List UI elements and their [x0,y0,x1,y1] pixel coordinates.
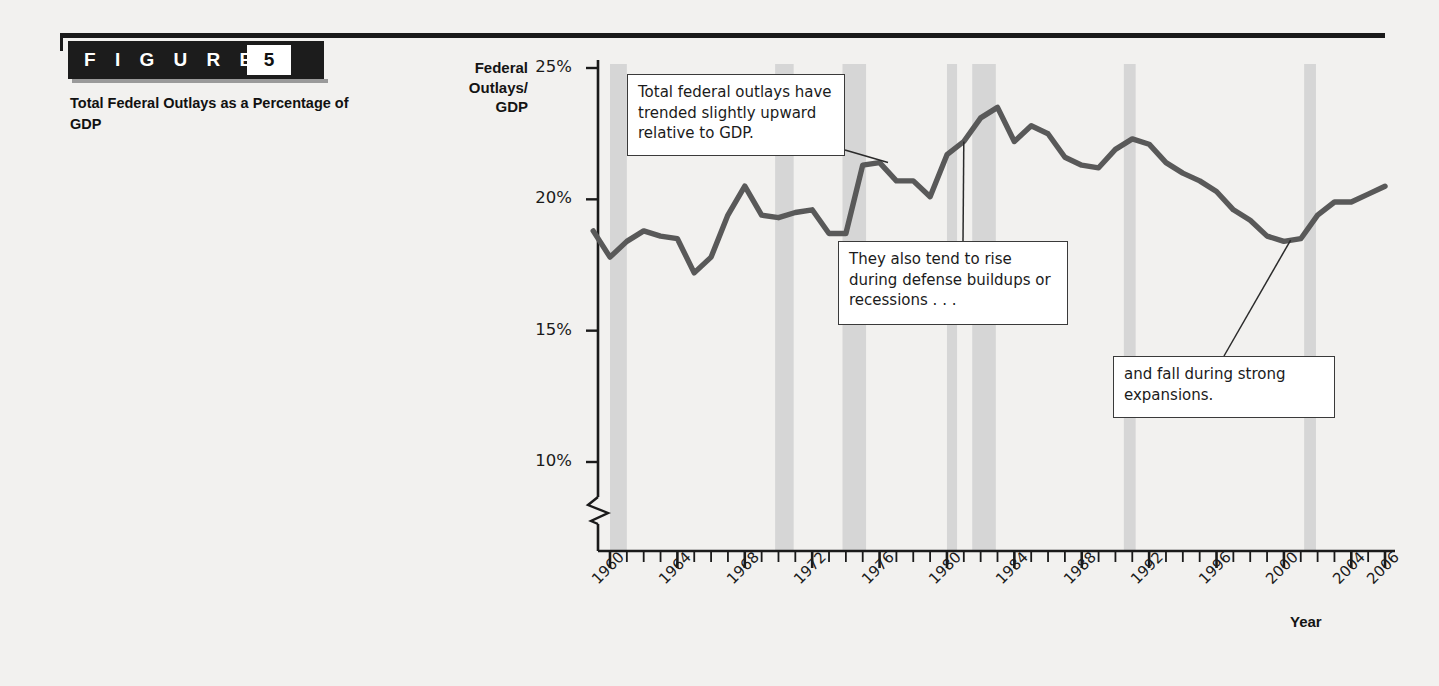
y-tick-label-25: 25% [514,57,572,76]
y-axis-break-symbol [588,497,608,524]
annotation-callout-2: and fall during strong expansions. [1113,356,1335,418]
x-axis-ticks [610,551,1385,568]
leader-line-1 [963,142,964,243]
y-tick-label-15: 15% [514,320,572,339]
recession-band-6 [1304,64,1316,551]
y-tick-label-10: 10% [514,451,572,470]
recession-band-0 [610,64,627,551]
figure-page: F I G U R E 5 Total Federal Outlays as a… [0,0,1439,686]
y-tick-label-20: 20% [514,188,572,207]
annotation-callout-1: They also tend to rise during defense bu… [838,241,1068,325]
leader-line-2 [1224,240,1291,356]
annotation-callout-0: Total federal outlays have trended sligh… [627,74,845,156]
y-axis-ticks [586,68,598,462]
